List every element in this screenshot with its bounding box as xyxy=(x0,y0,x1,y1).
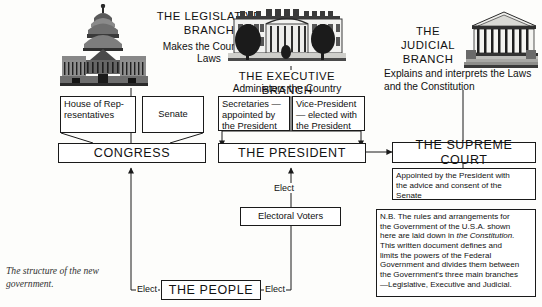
nb-line-3a: here are laid down in xyxy=(380,231,457,240)
the-people-box: THE PEOPLE xyxy=(161,280,261,300)
nb-line-7: the Government's three main branches xyxy=(380,270,519,280)
elect-left-text: Elect xyxy=(137,284,157,294)
nb-line-6: Government and divides them between xyxy=(380,260,519,270)
congress-box: CONGRESS xyxy=(58,143,206,163)
electoral-voters-label: Electoral Voters xyxy=(258,211,323,222)
elect-right-text: Elect xyxy=(265,284,285,294)
house-line-1: House of Rep- xyxy=(64,99,124,110)
supreme-court-label: THE SUPREME COURT xyxy=(393,138,535,168)
elect-label-right: Elect xyxy=(264,284,286,294)
house-of-representatives-box: House of Rep- resentatives xyxy=(60,96,136,133)
nb-constitution-italic: the Constitution xyxy=(457,231,513,240)
senate-label: Senate xyxy=(158,109,187,120)
electoral-voters-box: Electoral Voters xyxy=(240,207,341,226)
secretaries-box: Secretaries — appointed by the President xyxy=(218,96,290,131)
white-house-icon xyxy=(226,6,348,68)
capitol-building-icon xyxy=(58,4,150,90)
nb-line-4: This written document defines and xyxy=(380,241,519,251)
nb-line-8: —Legislative, Executive and Judicial. xyxy=(380,280,519,290)
senate-box: Senate xyxy=(142,96,204,133)
nb-line-1: N.B. The rules and arrangements for xyxy=(380,212,519,222)
congress-label: CONGRESS xyxy=(94,146,170,161)
appointed-note-line-1: Appointed by the President with xyxy=(396,171,510,181)
president-box: THE PRESIDENT xyxy=(218,143,366,163)
appointed-note-box: Appointed by the President with the advi… xyxy=(392,168,536,200)
the-people-label: THE PEOPLE xyxy=(169,283,254,298)
appointed-note-line-3: Senate xyxy=(396,191,510,201)
secretaries-line-2: appointed by xyxy=(222,110,281,121)
nb-line-3: here are laid down in the Constitution. xyxy=(380,231,519,241)
vice-president-line-1: Vice-President xyxy=(296,99,357,110)
nb-line-5: limits the powers of the Federal xyxy=(380,251,519,261)
appointed-note-line-2: the advice and consent of the xyxy=(396,181,510,191)
elect-label-left: Elect xyxy=(136,284,158,294)
nb-line-2: the Government of the U.S.A. shown xyxy=(380,222,519,232)
judicial-branch-subtitle: Explains and interprets the Laws and the… xyxy=(384,68,542,94)
house-line-2: resentatives xyxy=(64,110,124,121)
supreme-court-box: THE SUPREME COURT xyxy=(392,142,536,163)
secretaries-line-1: Secretaries — xyxy=(222,99,281,110)
vice-president-line-3: the President xyxy=(296,121,357,132)
president-label: THE PRESIDENT xyxy=(238,146,346,161)
vice-president-line-2: — elected with xyxy=(296,110,357,121)
diagram-canvas: THE LEGISLATIVE BRANCH Makes the Country… xyxy=(0,0,542,307)
vice-president-box: Vice-President — elected with the Presid… xyxy=(292,96,365,131)
executive-branch-subtitle: Administers the Country xyxy=(222,83,352,95)
judicial-branch-title: THE JUDICIAL BRANCH xyxy=(388,25,468,66)
nb-note-box: N.B. The rules and arrangements for the … xyxy=(376,209,536,297)
figure-caption: The structure of the new government. xyxy=(6,265,116,291)
nb-line-3b: . xyxy=(512,231,514,240)
elect-label-up: Elect xyxy=(273,183,295,193)
supreme-court-building-icon xyxy=(464,10,540,70)
secretaries-line-3: the President xyxy=(222,121,281,132)
elect-up-text: Elect xyxy=(274,183,294,193)
